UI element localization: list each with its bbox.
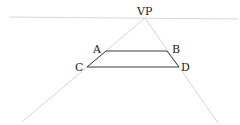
point-c-label: C	[75, 61, 83, 74]
perspective-diagram: VP A B C D	[0, 0, 240, 125]
point-b-label: B	[172, 43, 180, 56]
point-d-label: D	[181, 61, 190, 74]
ray-left	[22, 18, 145, 122]
point-a-label: A	[92, 43, 102, 56]
vp-label: VP	[136, 5, 153, 18]
horizon-line	[9, 17, 238, 19]
